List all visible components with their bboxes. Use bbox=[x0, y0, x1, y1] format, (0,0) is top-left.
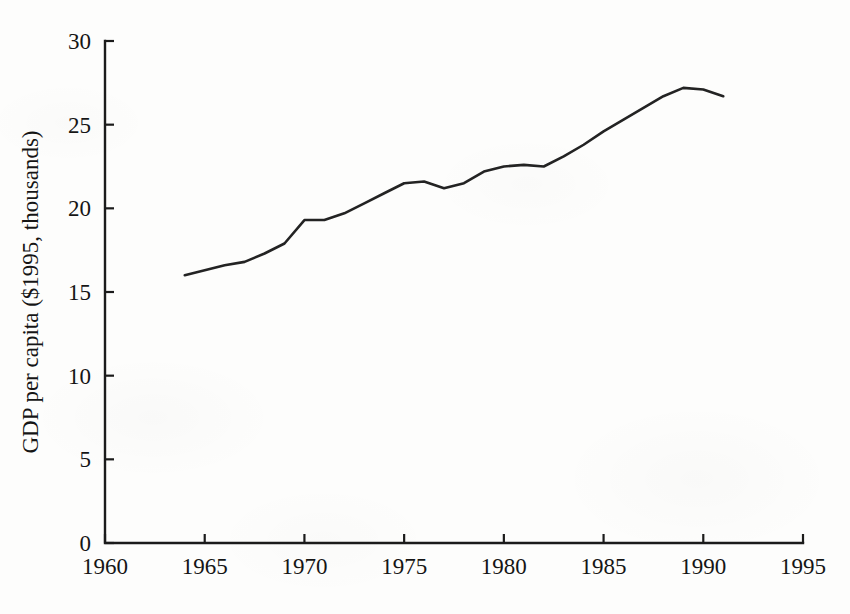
x-axis-tick-labels: 19601965197019751980198519901995 bbox=[82, 554, 826, 579]
axis-spines bbox=[105, 41, 803, 543]
y-tick-label: 15 bbox=[68, 280, 91, 305]
data-series-group: GDP per capita bbox=[185, 88, 723, 275]
data-line-gdp-per-capita: GDP per capita bbox=[185, 88, 723, 275]
y-tick-label: 0 bbox=[80, 531, 92, 556]
x-tick-label: 1965 bbox=[182, 554, 228, 579]
y-axis-title: GDP per capita ($1995, thousands) bbox=[18, 131, 43, 454]
x-tick-label: 1990 bbox=[680, 554, 726, 579]
chart-figure: 19601965197019751980198519901995 0510152… bbox=[0, 0, 850, 614]
y-axis-ticks bbox=[105, 41, 114, 543]
axes-group bbox=[105, 41, 803, 543]
y-tick-label: 25 bbox=[68, 113, 91, 138]
y-axis-tick-labels: 051015202530 bbox=[68, 29, 91, 556]
x-tick-label: 1985 bbox=[581, 554, 627, 579]
x-tick-label: 1980 bbox=[481, 554, 527, 579]
x-axis-ticks bbox=[105, 534, 803, 543]
x-tick-label: 1995 bbox=[780, 554, 826, 579]
x-tick-label: 1975 bbox=[381, 554, 427, 579]
y-tick-label: 30 bbox=[68, 29, 91, 54]
y-tick-label: 10 bbox=[68, 364, 91, 389]
x-tick-label: 1970 bbox=[281, 554, 327, 579]
x-tick-label: 1960 bbox=[82, 554, 128, 579]
line-chart-plot: 19601965197019751980198519901995 0510152… bbox=[0, 0, 850, 614]
y-axis-title-text: GDP per capita ($1995, thousands) bbox=[18, 131, 43, 454]
y-tick-label: 20 bbox=[68, 196, 91, 221]
y-tick-label: 5 bbox=[80, 447, 92, 472]
